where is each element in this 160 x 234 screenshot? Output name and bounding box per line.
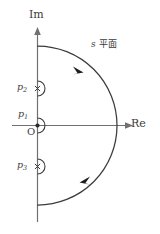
pole-label-p3-subscript: 3: [23, 164, 27, 172]
imaginary-axis-label: Im: [29, 9, 44, 20]
pole-indentation-p2: [38, 81, 46, 96]
contour-arrow-lower: [80, 177, 91, 185]
pole-label-p2-subscript: 2: [23, 86, 27, 94]
pole-label-p2: p2: [17, 82, 27, 92]
pole-marker-p1: [35, 123, 39, 127]
real-axis-label: Re: [131, 118, 146, 129]
pole-label-p1: p1: [18, 109, 28, 119]
s-plane-word: 平面: [99, 39, 117, 49]
pole-indentation-p3: [38, 159, 46, 174]
pole-label-p3: p3: [17, 160, 27, 170]
pole-label-p1-subscript: 1: [24, 113, 28, 121]
s-plane-label: s 平面: [91, 39, 117, 49]
origin-label: O: [27, 127, 35, 137]
s-plane-symbol: s: [91, 39, 96, 49]
contour-arrow-upper: [72, 66, 83, 74]
